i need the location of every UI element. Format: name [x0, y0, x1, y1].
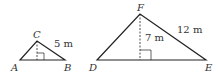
side-measure-fe: 12 m [177, 24, 203, 35]
right-angle-mark-def [140, 50, 151, 60]
similar-triangles-diagram: A B C 5 m D E F 7 m 12 m [0, 0, 218, 73]
triangle-abc: A B C 5 m [10, 29, 74, 73]
side-measure-bc: 5 m [54, 38, 74, 49]
vertex-label-f: F [136, 2, 145, 13]
vertex-label-c: C [33, 29, 41, 40]
vertex-label-b: B [63, 62, 71, 73]
vertex-label-a: A [10, 62, 18, 73]
vertex-label-e: E [204, 62, 213, 73]
height-measure-def: 7 m [145, 32, 165, 43]
triangle-def: D E F 7 m 12 m [88, 2, 213, 73]
right-angle-mark-abc [37, 53, 44, 60]
vertex-label-d: D [88, 62, 97, 73]
